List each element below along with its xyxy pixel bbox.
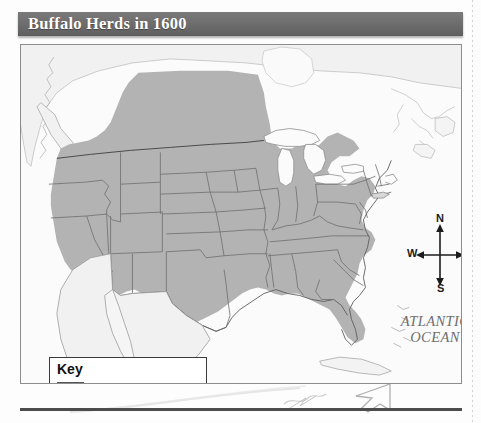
lake-michigan bbox=[278, 148, 294, 186]
map-container: ATLANTIC OCEAN N S W E Key Buffalo herds… bbox=[20, 44, 462, 384]
page-bottom-rule bbox=[20, 408, 462, 411]
compass-rose: N S W E bbox=[407, 213, 462, 297]
map-title-banner: Buffalo Herds in 1600 bbox=[18, 12, 463, 36]
map-legend: Key Buffalo herds, 1600 bbox=[49, 357, 207, 384]
united-states-map bbox=[21, 45, 461, 383]
legend-label-buffalo-herds: Buffalo herds, 1600 bbox=[95, 383, 203, 384]
compass-label-south: S bbox=[437, 282, 444, 294]
page-title: Buffalo Herds in 1600 bbox=[28, 14, 187, 34]
legend-swatch-buffalo-herds bbox=[57, 382, 84, 384]
compass-label-north: N bbox=[436, 212, 444, 224]
arrow-up-icon bbox=[436, 224, 444, 232]
compass-label-west: W bbox=[407, 247, 417, 259]
lake-erie bbox=[314, 174, 346, 184]
legend-entry: Buffalo herds, 1600 bbox=[57, 382, 203, 384]
arrow-right-icon bbox=[456, 251, 462, 259]
lake-ontario bbox=[342, 164, 364, 173]
page-edge-dotted-rule bbox=[472, 0, 473, 423]
legend-title: Key bbox=[57, 361, 83, 377]
